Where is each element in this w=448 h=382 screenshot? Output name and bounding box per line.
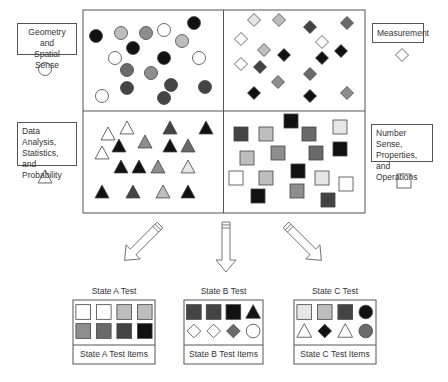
triangle-icon	[114, 160, 128, 173]
arrow-to-state-c	[279, 218, 328, 267]
square-icon	[76, 324, 91, 339]
square-icon	[338, 305, 353, 320]
category-label-data: Data Analysis,Statistics, andProbability	[17, 122, 77, 166]
square-icon	[284, 114, 298, 128]
diamond-icon	[304, 21, 317, 34]
diamond-icon	[235, 58, 248, 71]
triangle-icon	[181, 160, 195, 173]
circle-icon	[127, 42, 140, 55]
diamond-icon	[318, 324, 332, 338]
diamond-icon	[227, 324, 241, 338]
triangle-icon	[181, 185, 195, 198]
diamond-icon	[316, 36, 329, 49]
diamond-icon	[273, 14, 286, 27]
diamond-icon	[187, 324, 201, 338]
diamond-icon	[248, 87, 261, 100]
triangle-icon	[297, 324, 312, 338]
square-icon	[206, 305, 221, 320]
triangle-icon	[138, 135, 152, 148]
circle-icon	[121, 82, 134, 95]
square-icon	[290, 184, 304, 198]
diamond-icon	[258, 44, 271, 57]
circle-icon	[115, 27, 128, 40]
triangle-icon	[95, 185, 109, 198]
circle-icon	[188, 17, 201, 30]
category-label-line: Operations	[376, 172, 428, 183]
diamond-icon	[207, 324, 221, 338]
category-label-line: Data Analysis,	[22, 126, 72, 148]
circle-icon	[176, 35, 189, 48]
triangle-icon	[199, 121, 213, 134]
square-icon	[76, 305, 91, 320]
square-icon	[240, 151, 254, 165]
category-label-line: Measurement	[377, 28, 419, 39]
square-icon	[339, 177, 353, 191]
square-icon	[251, 189, 265, 203]
test-footer-state-c: State C Test Items	[294, 349, 376, 359]
diamond-icon	[272, 76, 285, 89]
diamond-icon	[341, 87, 354, 100]
circle-icon	[140, 27, 153, 40]
diamond-icon	[248, 14, 261, 27]
triangle-icon	[151, 160, 165, 173]
square-icon	[117, 305, 132, 320]
triangle-icon	[338, 324, 353, 338]
category-label-measurement: Measurement	[372, 23, 424, 43]
square-icon	[229, 171, 243, 185]
square-icon	[302, 127, 316, 141]
square-icon	[333, 142, 347, 156]
square-icon	[333, 120, 347, 134]
triangle-icon	[112, 139, 126, 152]
category-label-line: Number Sense,	[376, 128, 428, 150]
triangle-icon	[95, 146, 109, 159]
square-icon	[259, 127, 273, 141]
diamond-icon	[396, 49, 409, 62]
category-label-line: Geometry and	[22, 27, 72, 49]
square-icon	[234, 127, 248, 141]
square-icon	[226, 305, 241, 320]
category-label-line: Spatial Sense	[22, 49, 72, 71]
square-icon	[259, 171, 273, 185]
square-icon	[297, 305, 312, 320]
square-icon	[96, 305, 111, 320]
square-icon	[309, 146, 323, 160]
diamond-icon	[316, 52, 329, 65]
square-icon	[321, 193, 335, 207]
circle-icon	[121, 64, 134, 77]
diamond-icon	[278, 49, 291, 62]
arrow-to-state-b	[216, 222, 236, 272]
test-title-state-a: State A Test	[73, 286, 155, 296]
square-icon	[187, 305, 202, 320]
square-icon	[291, 164, 305, 178]
category-label-line: Statistics, and	[22, 148, 72, 170]
triangle-icon	[120, 121, 134, 134]
circle-icon	[246, 324, 260, 338]
triangle-icon	[163, 139, 177, 152]
diamond-icon	[304, 90, 317, 103]
triangle-icon	[126, 185, 140, 198]
square-icon	[315, 171, 329, 185]
diamond-icon	[254, 61, 267, 74]
test-title-state-c: State C Test	[294, 286, 376, 296]
diamond-icon	[341, 17, 354, 30]
circle-icon	[90, 30, 103, 43]
circle-icon	[199, 81, 212, 94]
square-icon	[96, 324, 111, 339]
triangle-icon	[101, 127, 115, 140]
square-icon	[137, 305, 152, 320]
triangle-icon	[163, 121, 177, 134]
item-pool-shapes	[90, 14, 354, 208]
triangle-icon	[246, 305, 261, 319]
diamond-icon	[235, 33, 248, 46]
category-label-line: Properties, and	[376, 150, 428, 172]
square-icon	[271, 146, 285, 160]
diamond-icon	[304, 68, 317, 81]
test-footer-state-b: State B Test Items	[184, 349, 263, 359]
category-icons	[38, 49, 411, 189]
circle-icon	[359, 324, 373, 338]
square-icon	[317, 305, 332, 320]
circle-icon	[96, 90, 109, 103]
circle-icon	[158, 92, 171, 105]
arrows	[118, 218, 329, 272]
category-label-geometry: Geometry andSpatial Sense	[17, 23, 77, 55]
